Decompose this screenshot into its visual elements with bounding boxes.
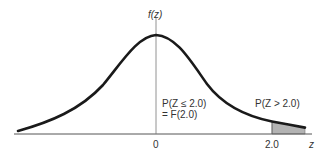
tail-probability-label: P(Z > 2.0) [255,98,300,109]
cdf-label-line2: = F(2.0) [162,109,197,120]
normal-distribution-diagram: f(z) 0 2.0 z P(Z ≤ 2.0) = F(2.0) P(Z > 2… [0,0,329,156]
tick-label-zero: 0 [153,139,159,150]
tick-label-two: 2.0 [265,139,279,150]
x-axis-label: z [309,139,314,150]
cdf-label-line1: P(Z ≤ 2.0) [162,98,206,109]
diagram-canvas [0,0,329,156]
y-axis-label: f(z) [148,9,162,20]
